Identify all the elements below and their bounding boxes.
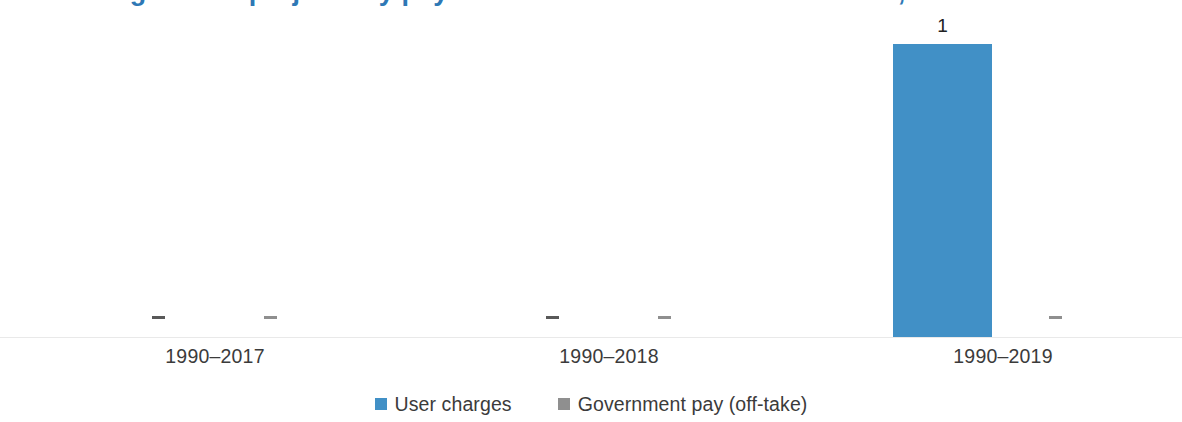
x-axis-tick-labels: 1990–2017 1990–2018 1990–2019 [0,345,1182,373]
chart-legend: User charges Government pay (off-take) [0,391,1182,417]
missing-value-marker [1049,316,1062,319]
chart-title-clipped: Financing of PPP projects by payment sou… [0,0,1182,7]
legend-label-user-charges: User charges [395,393,512,416]
plot-area: 1 [0,7,1182,338]
missing-value-marker [546,316,559,319]
x-tick-label-1990-2018: 1990–2018 [494,345,724,368]
legend-item-government-pay[interactable]: Government pay (off-take) [558,393,808,416]
legend-swatch-icon [375,398,387,410]
bar-value-label: 1 [893,15,992,37]
chart-title-text: Financing of PPP projects by payment sou… [18,0,1049,7]
legend-label-government-pay: Government pay (off-take) [578,393,808,416]
missing-value-marker [264,316,277,319]
missing-value-marker [152,316,165,319]
bar-user-charges-1990-2019 [893,44,992,337]
x-axis-line [0,337,1182,338]
missing-value-marker [658,316,671,319]
bar-chart: Financing of PPP projects by payment sou… [0,0,1182,422]
x-tick-label-1990-2019: 1990–2019 [888,345,1118,368]
legend-item-user-charges[interactable]: User charges [375,393,512,416]
x-tick-label-1990-2017: 1990–2017 [100,345,330,368]
legend-swatch-icon [558,398,570,410]
